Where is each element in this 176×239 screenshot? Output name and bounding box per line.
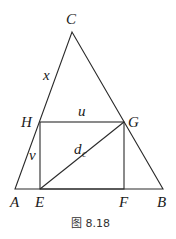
- label-c: C: [66, 11, 77, 27]
- label-e: E: [34, 194, 44, 210]
- label-f: F: [118, 194, 129, 210]
- label-h: H: [20, 114, 33, 130]
- geometry-figure: C H G A E F B x u v d c 图 8.18: [0, 0, 176, 239]
- label-u: u: [78, 103, 86, 119]
- label-a: A: [9, 194, 20, 210]
- figure-caption: 图 8.18: [71, 217, 110, 230]
- label-b: B: [157, 194, 166, 210]
- label-d-subscript: c: [82, 148, 87, 159]
- triangle-abc: [15, 32, 163, 189]
- label-g: G: [128, 114, 139, 130]
- label-v: v: [29, 147, 36, 163]
- label-x: x: [42, 67, 50, 83]
- label-d: d: [74, 141, 82, 157]
